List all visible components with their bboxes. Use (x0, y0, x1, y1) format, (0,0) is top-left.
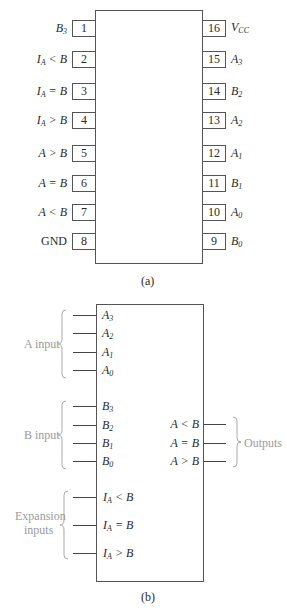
pin-9-box: 9 (202, 233, 226, 250)
pin-4-box: 4 (72, 112, 96, 129)
expansion-lead-gt (73, 553, 96, 554)
pin-12-box: 12 (202, 145, 226, 162)
pin-7-label: A < B (38, 205, 67, 219)
pin-6-box: 6 (72, 175, 96, 192)
pin-number: 1 (81, 21, 87, 35)
pin-3-box: 3 (72, 83, 96, 100)
expansion-group-label-line1: Expansion (15, 509, 66, 523)
pin-8-label: GND (41, 234, 67, 248)
input-label-b1: B1 (102, 436, 113, 454)
pin-number: 4 (81, 113, 87, 127)
pin-9-label: B0 (231, 234, 242, 252)
pin-8-box: 8 (72, 233, 96, 250)
pin-number: 14 (208, 84, 220, 98)
input-lead-a2 (73, 333, 96, 334)
expansion-label-lt: IA < B (103, 490, 133, 508)
a-input-group-label: A input (24, 337, 60, 351)
input-lead-b1 (73, 443, 96, 444)
expansion-brace-icon (60, 491, 70, 559)
input-label-a0: A0 (102, 363, 113, 381)
pin-14-label: B2 (231, 84, 242, 102)
outputs-group-label: Outputs (244, 436, 282, 450)
expansion-group-label-line2: inputs (24, 523, 53, 537)
input-label-b2: B2 (102, 418, 113, 436)
pin-11-box: 11 (202, 175, 226, 192)
input-label-b0: B0 (102, 454, 113, 472)
output-label-gt: A > B (170, 454, 199, 468)
pin-7-box: 7 (72, 204, 96, 221)
pin-13-label: A2 (231, 113, 242, 131)
figure-a-caption: (a) (141, 274, 154, 289)
input-label-a1: A1 (102, 345, 113, 363)
pin-number: 9 (211, 234, 217, 248)
output-label-eq: A = B (170, 436, 199, 450)
output-lead-lt (204, 424, 226, 425)
pin-number: 13 (208, 113, 220, 127)
pin-number: 7 (81, 205, 87, 219)
pin-11-label: B1 (231, 176, 242, 194)
input-lead-b2 (73, 425, 96, 426)
pin-13-box: 13 (202, 112, 226, 129)
input-label-a2: A2 (102, 326, 113, 344)
ic-package-body (95, 10, 203, 264)
pin-16-box: 16 (202, 20, 226, 37)
pin-16-label: VCC (231, 20, 249, 38)
pin-14-box: 14 (202, 83, 226, 100)
expansion-label-gt: IA > B (103, 546, 133, 564)
pin-10-box: 10 (202, 204, 226, 221)
input-lead-b3 (73, 406, 96, 407)
pin-3-label: IA = B (37, 84, 67, 102)
input-label-a3: A3 (102, 308, 113, 326)
expansion-lead-lt (73, 497, 96, 498)
pin-15-box: 15 (202, 51, 226, 68)
input-lead-a1 (73, 352, 96, 353)
b-input-group-label: B input (24, 428, 60, 442)
pin-number: 15 (208, 52, 220, 66)
pin-number: 11 (208, 176, 220, 190)
pin-number: 10 (208, 205, 220, 219)
figure-b-caption: (b) (141, 590, 155, 605)
input-label-b3: B3 (102, 399, 113, 417)
expansion-lead-eq (73, 525, 96, 526)
outputs-brace-icon (233, 417, 243, 467)
pin-number: 8 (81, 234, 87, 248)
pin-15-label: A3 (231, 52, 242, 70)
pin-12-label: A1 (231, 146, 242, 164)
output-label-lt: A < B (170, 417, 199, 431)
input-lead-a3 (73, 315, 96, 316)
output-lead-eq (204, 443, 226, 444)
expansion-label-eq: IA = B (103, 518, 133, 536)
pin-number: 3 (81, 84, 87, 98)
pin-number: 5 (81, 146, 87, 160)
pin-number: 6 (81, 176, 87, 190)
pin-5-box: 5 (72, 145, 96, 162)
pin-6-label: A = B (38, 176, 67, 190)
pin-number: 12 (208, 146, 220, 160)
input-lead-a0 (73, 370, 96, 371)
pin-number: 16 (208, 21, 220, 35)
output-lead-gt (204, 461, 226, 462)
pin-number: 2 (81, 52, 87, 66)
pin-5-label: A > B (38, 146, 67, 160)
input-lead-b0 (73, 461, 96, 462)
pin-4-label: IA > B (37, 113, 67, 131)
pin-2-box: 2 (72, 51, 96, 68)
pin-1-label: B3 (56, 21, 67, 39)
pin-2-label: IA < B (37, 52, 67, 70)
pin-1-box: 1 (72, 20, 96, 37)
pin-10-label: A0 (231, 205, 242, 223)
